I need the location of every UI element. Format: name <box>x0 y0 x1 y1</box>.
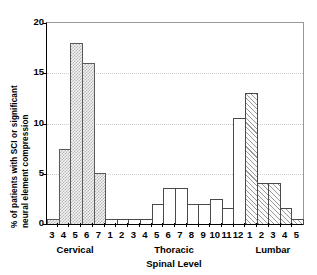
y-axis-title-line1: % of patients with SCI or significant <box>10 85 19 228</box>
x-tick-label: 5 <box>290 228 302 241</box>
group-label-cervical: Cervical <box>46 243 104 257</box>
group-label-thoracic: Thoracic <box>104 243 244 257</box>
x-tick-label: 3 <box>127 228 139 241</box>
y-tick-label: 5 <box>24 168 44 178</box>
x-tick-label: 1 <box>244 228 256 241</box>
x-tick-mark <box>292 223 303 227</box>
x-tick-mark <box>81 223 93 227</box>
x-tick-label: 1 <box>104 228 116 241</box>
x-axis-group-labels: CervicalThoracicLumbar <box>46 243 302 257</box>
x-tick-mark <box>269 223 281 227</box>
x-tick-label: 3 <box>267 228 279 241</box>
plot-area <box>46 22 304 225</box>
x-tick-label: 10 <box>209 228 221 241</box>
x-axis-title: Spinal Level <box>46 258 302 269</box>
chart-figure: % of patients with SCI or significant ne… <box>0 0 317 275</box>
x-tick-label: 3 <box>46 228 58 241</box>
x-tick-mark <box>245 223 257 227</box>
x-tick-mark <box>234 223 246 227</box>
x-tick-label: 9 <box>197 228 209 241</box>
y-tick-label: 10 <box>24 118 44 128</box>
x-tick-mark <box>105 223 117 227</box>
x-tick-label: 2 <box>256 228 268 241</box>
x-tick-mark <box>257 223 269 227</box>
x-tick-label: 5 <box>151 228 163 241</box>
bar-series <box>47 23 303 224</box>
x-axis-tick-marks <box>46 223 303 227</box>
x-tick-mark <box>93 223 105 227</box>
x-tick-label: 4 <box>58 228 70 241</box>
x-tick-mark <box>58 223 70 227</box>
x-tick-label: 4 <box>279 228 291 241</box>
x-tick-label: 8 <box>186 228 198 241</box>
x-tick-label: 11 <box>221 228 233 241</box>
x-tick-mark <box>187 223 199 227</box>
x-tick-mark <box>46 223 58 227</box>
x-tick-mark <box>199 223 211 227</box>
x-tick-label: 12 <box>232 228 244 241</box>
x-tick-label: 5 <box>69 228 81 241</box>
x-tick-mark <box>152 223 164 227</box>
y-tick-label: 15 <box>24 67 44 77</box>
x-tick-mark <box>140 223 152 227</box>
x-tick-mark <box>222 223 234 227</box>
bar <box>94 173 107 224</box>
x-tick-label: 7 <box>174 228 186 241</box>
group-label-lumbar: Lumbar <box>244 243 302 257</box>
x-tick-label: 4 <box>139 228 151 241</box>
x-tick-label: 6 <box>162 228 174 241</box>
x-tick-mark <box>175 223 187 227</box>
x-tick-label: 2 <box>116 228 128 241</box>
y-tick-label: 0 <box>24 218 44 228</box>
x-tick-mark <box>69 223 81 227</box>
y-tick-label: 20 <box>24 17 44 27</box>
x-tick-label: 6 <box>81 228 93 241</box>
x-tick-label: 7 <box>93 228 105 241</box>
x-tick-mark <box>116 223 128 227</box>
x-tick-mark <box>210 223 222 227</box>
x-tick-mark <box>281 223 293 227</box>
x-tick-mark <box>128 223 140 227</box>
x-axis-tick-labels: 3456712345678910111212345 <box>46 228 302 241</box>
x-tick-mark <box>163 223 175 227</box>
y-axis-tick-labels: 05101520 <box>22 0 44 275</box>
